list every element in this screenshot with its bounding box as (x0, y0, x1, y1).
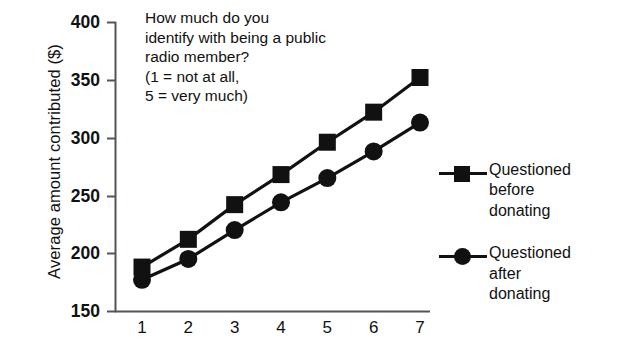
legend-label-line: after (489, 264, 571, 284)
x-tick-label: 2 (168, 318, 208, 338)
legend-item-after: Questioned after donating (437, 243, 627, 304)
legend-label-before: Questioned before donating (489, 160, 571, 221)
axes (107, 22, 430, 312)
x-tick-label: 4 (261, 318, 301, 338)
legend-label-line: before (489, 180, 571, 200)
legend-label-line: Questioned (489, 160, 571, 180)
data-point-circle (226, 221, 244, 239)
data-point-circle (411, 114, 429, 132)
data-point-circle (133, 271, 151, 289)
legend-label-after: Questioned after donating (489, 243, 571, 304)
data-point-circle (318, 169, 336, 187)
legend-item-before: Questioned before donating (437, 160, 627, 221)
data-series-layer (133, 69, 429, 289)
legend-label-line: donating (489, 201, 571, 221)
chart-legend: Questioned before donating Questioned af… (437, 160, 627, 327)
data-point-circle (365, 142, 383, 160)
data-point-square (412, 69, 429, 86)
series-after (133, 114, 429, 289)
square-marker-icon (437, 162, 489, 184)
x-tick-label: 5 (307, 318, 347, 338)
data-point-square (273, 166, 290, 183)
x-tick-label: 7 (400, 318, 440, 338)
series-before (134, 69, 429, 276)
legend-label-line: donating (489, 284, 571, 304)
data-point-square (180, 231, 197, 248)
x-tick-label: 3 (215, 318, 255, 338)
data-point-square (226, 196, 243, 213)
legend-label-line: Questioned (489, 243, 571, 263)
x-tick-label: 6 (354, 318, 394, 338)
x-tick-label: 1 (122, 318, 162, 338)
chart-container: Average amount contributed ($) 400 350 3… (0, 0, 627, 358)
data-point-square (365, 104, 382, 121)
data-point-square (319, 134, 336, 151)
circle-marker-icon (437, 245, 489, 267)
data-point-circle (272, 193, 290, 211)
data-point-circle (179, 250, 197, 268)
